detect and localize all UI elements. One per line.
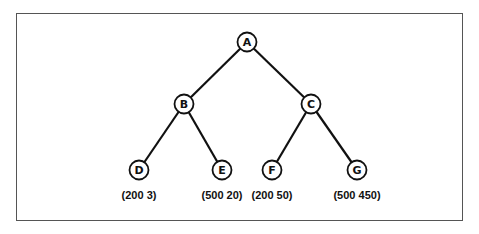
node-F: F xyxy=(263,161,282,180)
leaf-values: (200 3)(500 20)(200 50)(500 450) xyxy=(122,189,381,201)
leaf-value-F: (200 50) xyxy=(252,189,293,201)
leaf-value-G: (500 450) xyxy=(333,189,380,201)
node-G: G xyxy=(348,161,367,180)
leaf-value-E: (500 20) xyxy=(202,189,243,201)
node-label: E xyxy=(218,164,226,177)
tree-nodes: ABCDEFG xyxy=(130,33,367,180)
node-label: A xyxy=(243,36,252,49)
node-label: D xyxy=(134,164,143,177)
node-D: D xyxy=(130,161,149,180)
node-label: B xyxy=(180,98,188,111)
tree-diagram: ABCDEFG (200 3)(500 20)(200 50)(500 450) xyxy=(0,0,479,234)
edge-C-G xyxy=(311,104,357,170)
edge-B-D xyxy=(139,104,184,170)
node-E: E xyxy=(213,161,232,180)
node-C: C xyxy=(302,95,321,114)
node-label: F xyxy=(268,164,276,177)
node-A: A xyxy=(238,33,257,52)
tree-edges xyxy=(139,42,357,170)
edge-A-C xyxy=(247,42,311,104)
leaf-value-D: (200 3) xyxy=(122,189,157,201)
edge-B-E xyxy=(184,104,222,170)
edge-A-B xyxy=(184,42,247,104)
node-label: G xyxy=(352,164,361,177)
node-B: B xyxy=(175,95,194,114)
edge-C-F xyxy=(272,104,311,170)
node-label: C xyxy=(307,98,315,111)
